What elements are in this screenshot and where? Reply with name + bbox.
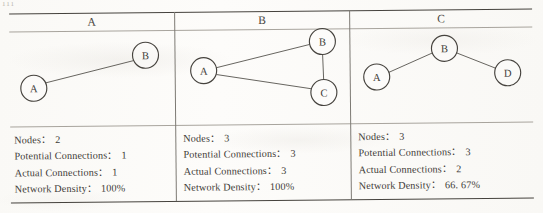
stat-value-nodes: 2 <box>55 134 60 145</box>
stat-label-actual-connections: Actual Connections <box>15 166 98 178</box>
panel-b-network-diagram: A B C <box>175 28 350 125</box>
edge-a-b <box>388 53 432 73</box>
panel-b-edges <box>216 44 324 89</box>
stat-label-nodes: Nodes <box>183 133 210 144</box>
stat-separator: ： <box>98 166 112 177</box>
stat-separator: ： <box>87 183 101 194</box>
stat-value-potential-connections: 1 <box>121 150 126 161</box>
stat-value-network-density: 100% <box>101 183 125 194</box>
stat-row: Actual Connections：3 <box>184 162 351 180</box>
stat-row: Actual Connections：1 <box>15 164 176 182</box>
panel-b: B A B C Nodes：3 <box>175 10 351 202</box>
stat-separator: ： <box>41 134 55 145</box>
stat-row: Nodes：3 <box>358 127 533 145</box>
stat-value-network-density: 66. 67% <box>445 179 480 190</box>
panel-c-network-diagram: A B D <box>350 26 533 123</box>
panel-c-stats: Nodes：3 Potential Connections：3 Actual C… <box>351 122 534 200</box>
stat-row: Nodes：2 <box>14 131 175 149</box>
stat-label-actual-connections: Actual Connections <box>359 163 442 175</box>
stat-label-potential-connections: Potential Connections <box>183 148 276 160</box>
edge-a-b <box>216 44 310 67</box>
stat-value-network-density: 100% <box>270 181 294 192</box>
stat-row: Potential Connections：3 <box>183 146 350 164</box>
panel-a-edges <box>45 61 134 83</box>
panel-b-stats: Nodes：3 Potential Connections：3 Actual C… <box>176 124 351 202</box>
stat-value-nodes: 3 <box>224 132 229 143</box>
stat-separator: ： <box>385 131 399 142</box>
stat-separator: ： <box>276 148 290 159</box>
node-b-label: B <box>441 43 448 54</box>
stat-separator: ： <box>451 147 465 158</box>
node-a-label: A <box>200 66 208 77</box>
panel-a-network-diagram: A B <box>9 30 175 127</box>
panel-a-stats: Nodes：2 Potential Connections：1 Actual C… <box>10 126 176 204</box>
panel-a: A A B Nodes：2 Potential Connections：1 <box>9 12 176 204</box>
stat-label-potential-connections: Potential Connections <box>358 147 451 159</box>
stat-row: Network Density：66. 67% <box>359 177 534 195</box>
edge-a-c <box>216 74 311 90</box>
stat-label-nodes: Nodes <box>358 131 385 142</box>
panel-b-header: B <box>175 10 349 30</box>
stat-separator: ： <box>107 150 121 161</box>
stat-value-actual-connections: 1 <box>112 166 117 177</box>
panel-c-graph: A B D <box>350 26 533 123</box>
stat-row: Potential Connections：1 <box>14 147 175 165</box>
panel-c: C A B D Nodes：3 <box>350 8 534 200</box>
stat-label-nodes: Nodes <box>14 134 41 145</box>
panel-c-nodes: A B D <box>363 35 521 91</box>
stat-separator: ： <box>256 181 270 192</box>
node-b-label: B <box>142 50 149 61</box>
stat-separator: ： <box>210 132 224 143</box>
stat-row: Actual Connections：2 <box>359 160 534 178</box>
stat-label-network-density: Network Density <box>359 180 431 192</box>
edge-b-c <box>323 54 324 79</box>
stat-row: Nodes：3 <box>183 129 350 147</box>
stat-separator: ： <box>431 180 445 191</box>
node-a-label: A <box>30 83 38 94</box>
stat-value-actual-connections: 3 <box>281 165 286 176</box>
stat-label-actual-connections: Actual Connections <box>184 165 267 177</box>
panel-b-nodes: A B C <box>190 28 337 106</box>
node-a-label: A <box>373 72 381 83</box>
comparison-table: A A B Nodes：2 Potential Connections：1 <box>0 0 543 213</box>
node-c-label: C <box>320 87 327 98</box>
stat-separator: ： <box>267 165 281 176</box>
stat-value-nodes: 3 <box>399 131 404 142</box>
stat-row: Network Density：100% <box>15 180 176 198</box>
stat-label-potential-connections: Potential Connections <box>14 150 107 162</box>
stat-value-actual-connections: 2 <box>456 163 461 174</box>
node-d-label: D <box>504 68 512 79</box>
stat-value-potential-connections: 3 <box>290 148 295 159</box>
stat-row: Potential Connections：3 <box>358 144 533 162</box>
panel-c-header: C <box>350 8 532 28</box>
panel-a-graph: A B <box>9 30 175 127</box>
edge-b-d <box>456 52 496 68</box>
node-b-label: B <box>319 36 326 47</box>
stat-value-potential-connections: 3 <box>465 146 470 157</box>
edge-a-b <box>45 61 134 83</box>
stat-separator: ： <box>442 163 456 174</box>
stat-label-network-density: Network Density <box>15 183 87 195</box>
panel-a-header: A <box>9 12 174 32</box>
panel-b-graph: A B C <box>175 28 350 125</box>
stat-label-network-density: Network Density <box>184 181 256 193</box>
stat-row: Network Density：100% <box>184 178 351 196</box>
